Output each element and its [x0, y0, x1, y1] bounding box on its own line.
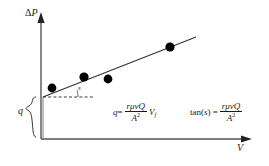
data-point: [165, 42, 174, 51]
y-axis: [37, 12, 44, 139]
equation-slope: tan(s) =rμvQA2: [190, 102, 244, 123]
eq2-function-name: tan(: [190, 107, 204, 117]
data-point: [79, 72, 88, 81]
eq2-denominator-exponent: 2: [232, 112, 235, 118]
y-axis-label: ΔP: [25, 7, 38, 18]
eq1-fraction: rμvQA2: [125, 102, 148, 123]
data-point: [104, 75, 113, 84]
eq2-function-close: ): [208, 107, 211, 117]
eq1-equals: =: [118, 107, 123, 117]
eq1-numerator: rμvQ: [125, 102, 148, 112]
equation-intercept: q=rμvQA2Vf: [113, 102, 156, 123]
chart-figure: ΔP V q s q=rμvQA2Vf tan(s) =rμvQA2: [0, 0, 269, 166]
x-axis-label: V: [237, 142, 243, 153]
eq1-denominator-exponent: 2: [137, 112, 140, 118]
eq2-numerator: rμvQ: [220, 102, 243, 112]
chart-canvas: [0, 0, 269, 166]
eq2-equals: =: [213, 107, 218, 117]
eq1-denominator: A2: [125, 112, 148, 123]
intercept-label: q: [18, 105, 23, 116]
angle-label: s: [78, 84, 81, 92]
y-axis-label-p: P: [31, 7, 37, 18]
eq2-fraction: rμvQA2: [220, 102, 243, 123]
data-point: [48, 84, 57, 93]
intercept-brace: [26, 97, 36, 137]
eq1-trailing-subscript: f: [155, 112, 157, 118]
x-axis: [41, 135, 252, 142]
eq2-denominator: A2: [220, 112, 243, 123]
data-points: [48, 42, 175, 92]
